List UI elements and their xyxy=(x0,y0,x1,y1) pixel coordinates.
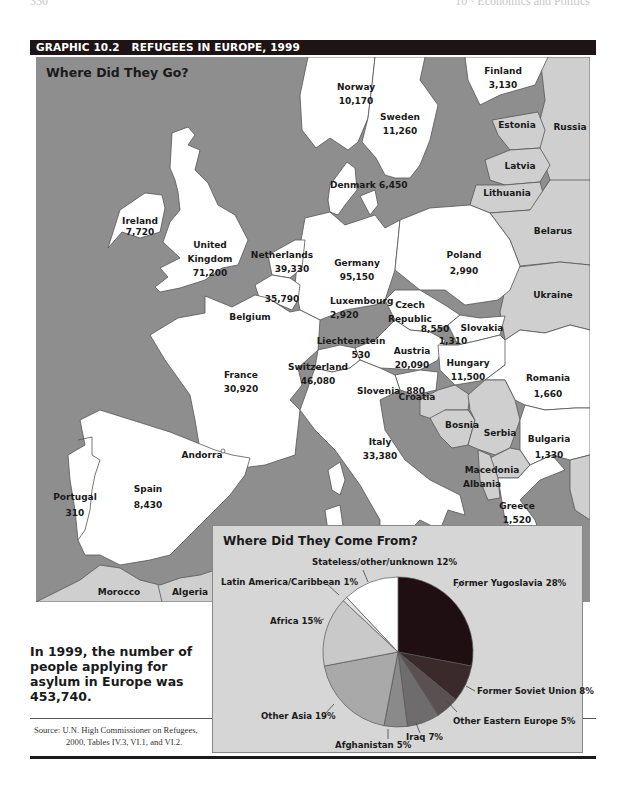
pie-label-africa: Africa 15% xyxy=(270,616,322,626)
label-germany: Germany95,150 xyxy=(334,256,380,284)
divider-thick xyxy=(30,756,596,759)
label-macedonia: Macedonia xyxy=(465,463,520,477)
pie-label-afghanistan: Afghanistan 5% xyxy=(335,740,411,750)
pie-label-iraq: Iraq 7% xyxy=(406,732,443,742)
label-belgium: Belgium xyxy=(229,310,270,324)
label-russia: Russia xyxy=(553,120,586,134)
graphic-title-bar: GRAPHIC 10.2 REFUGEES IN EUROPE, 1999 xyxy=(30,40,596,55)
label-greece: Greece1,520 xyxy=(499,499,534,527)
source-line-2: 2000, Tables IV.3, VI.1, and VI.2. xyxy=(34,736,214,748)
label-switzerland: Switzerland46,080 xyxy=(288,360,348,388)
source-line-1: Source: U.N. High Commissioner on Refuge… xyxy=(34,725,198,735)
page-number: 330 xyxy=(30,0,48,9)
graphic-title: REFUGEES IN EUROPE, 1999 xyxy=(131,41,299,53)
label-romania: Romania1,660 xyxy=(526,371,570,401)
label-latvia: Latvia xyxy=(504,159,535,173)
label-poland: Poland2,990 xyxy=(447,248,482,278)
pie-label-other-asia: Other Asia 19% xyxy=(261,711,336,721)
label-finland: Finland3,130 xyxy=(484,64,522,92)
running-head: 330 10 · Economics and Politics xyxy=(0,0,624,6)
graphic-number: GRAPHIC 10.2 xyxy=(36,41,120,53)
label-algeria: Algeria xyxy=(172,585,208,599)
divider-thin xyxy=(30,718,212,719)
label-ukraine: Ukraine xyxy=(533,288,572,302)
label-andorra: Andorra xyxy=(182,448,223,462)
label-ireland: Ireland7,720 xyxy=(122,216,158,238)
section-title: 10 · Economics and Politics xyxy=(455,0,590,9)
label-spain: Spain8,430 xyxy=(134,482,163,512)
label-belarus: Belarus xyxy=(534,224,572,238)
label-bulgaria: Bulgaria1,330 xyxy=(528,432,570,462)
label-morocco: Morocco xyxy=(98,585,141,599)
label-norway: Norway10,170 xyxy=(337,80,375,108)
pie-label-latin-america: Latin America/Caribbean 1% xyxy=(221,577,358,587)
label-lithuania: Lithuania xyxy=(483,186,531,200)
pie-slice-former-yugoslavia xyxy=(398,577,473,666)
label-austria: Austria20,090 xyxy=(394,344,431,372)
label-luxembourg: Luxembourg2,920 xyxy=(330,294,393,322)
pie-label-former-soviet-union: Former Soviet Union 8% xyxy=(477,686,594,696)
pie-label-stateless: Stateless/other/unknown 12% xyxy=(312,557,457,567)
label-serbia: Serbia xyxy=(484,426,517,440)
label-slovakia: Slovakia xyxy=(461,321,504,335)
total-caption: In 1999, the number of people applying f… xyxy=(30,644,210,704)
divider-thin-right xyxy=(583,718,596,719)
label-denmark: Denmark 6,450 xyxy=(330,178,407,192)
label-liechtenstein: Liechtenstein530 xyxy=(317,334,386,362)
label-netherlands: Netherlands39,330 xyxy=(251,248,313,276)
label-croatia: Croatia xyxy=(399,390,436,404)
origin-pie-inset: Where Did They Come From? Former Yugosla… xyxy=(212,525,583,753)
label-united-kingdom: UnitedKingdom71,200 xyxy=(188,238,233,280)
source-note: Source: U.N. High Commissioner on Refuge… xyxy=(34,724,214,748)
pie-label-former-yugoslavia: Former Yugoslavia 28% xyxy=(453,578,566,588)
label-estonia: Estonia xyxy=(498,118,536,132)
label-bosnia: Bosnia xyxy=(445,418,479,432)
label-portugal: Portugal310 xyxy=(53,490,97,520)
map-heading: Where Did They Go? xyxy=(46,65,189,80)
label-france: France30,920 xyxy=(224,368,259,396)
label-sweden: Sweden11,260 xyxy=(380,110,420,138)
label-slovakia-value: 1,310 xyxy=(439,334,467,348)
pie-label-other-eastern-europe: Other Eastern Europe 5% xyxy=(453,716,575,726)
label-belgium-value: 35,790 xyxy=(265,292,300,306)
label-hungary: Hungary11,500 xyxy=(446,356,489,384)
label-italy: Italy33,380 xyxy=(363,435,398,463)
label-albania: Albania xyxy=(463,477,501,491)
